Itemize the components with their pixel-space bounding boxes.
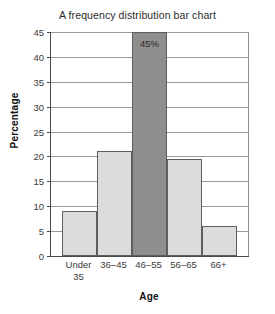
y-tick-label: 10 [33,201,44,212]
y-tick-label: 40 [33,51,44,62]
x-tick-label: 66+ [195,259,242,271]
y-tick-label: 35 [33,76,44,87]
bars-layer: 45% [51,32,249,256]
y-axis-title: Percentage [9,76,20,166]
chart-title: A frequency distribution bar chart [0,9,275,21]
bar-value-label: 45% [133,38,166,49]
y-tick-label: 0 [39,251,44,262]
y-tick-label: 30 [33,101,44,112]
y-tick-label: 15 [33,176,44,187]
y-tick-label: 20 [33,151,44,162]
bar-chart-figure: A frequency distribution bar chart Perce… [0,0,275,314]
y-tick-label: 5 [39,226,44,237]
y-tick-mark [47,256,51,257]
y-tick-label: 45 [33,27,44,38]
x-axis-title: Age [50,291,248,302]
bar [97,151,132,256]
bar [62,211,97,256]
plot-area: 454035302520151050 45% [50,32,249,257]
bar: 45% [132,32,167,256]
bar [202,226,237,256]
y-tick-label: 25 [33,126,44,137]
bar [167,159,202,256]
